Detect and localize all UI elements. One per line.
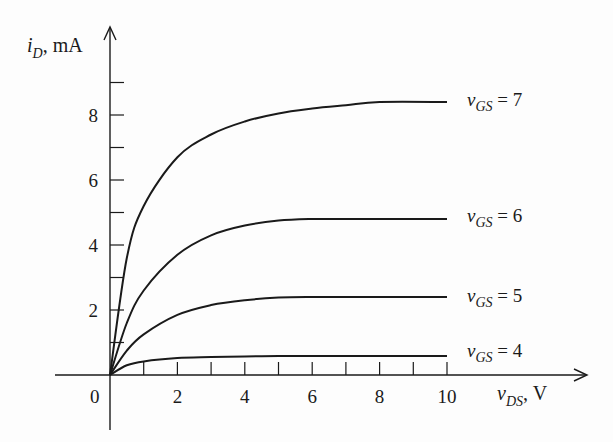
curve-label-vgs-6: vGS = 6	[467, 205, 522, 230]
y-axis-subscript: D	[32, 46, 43, 61]
x-tick-label: 8	[375, 386, 385, 407]
x-axis-subscript: DS	[505, 394, 523, 409]
curve-label-vgs-7: vGS = 7	[467, 89, 522, 114]
y-tick-label: 6	[89, 170, 99, 191]
y-tick-label: 2	[89, 300, 99, 321]
x-tick-label: 2	[173, 386, 183, 407]
y-tick-label: 8	[89, 105, 99, 126]
x-tick-label: 10	[438, 386, 457, 407]
y-tick-label: 4	[89, 235, 99, 256]
x-axis-unit: , V	[523, 382, 548, 404]
curve-label-vgs-5: vGS = 5	[467, 285, 522, 310]
y-axis-title: iD, mA	[27, 34, 83, 61]
curve-label-vgs-4: vGS = 4	[467, 340, 523, 365]
x-tick-label: 6	[307, 386, 317, 407]
curves	[110, 102, 447, 375]
x-axis-symbol: v	[497, 382, 506, 404]
mosfet-characteristic-chart: 2468102468 0 iD, mA vDS, V vGS = 7 vGS =…	[0, 0, 613, 442]
x-axis-title: vDS, V	[497, 382, 548, 409]
origin-label: 0	[90, 386, 100, 407]
ticks	[110, 83, 447, 376]
curve-v-gs-7	[110, 102, 447, 375]
x-tick-label: 4	[240, 386, 250, 407]
y-axis-unit: , mA	[43, 34, 84, 56]
